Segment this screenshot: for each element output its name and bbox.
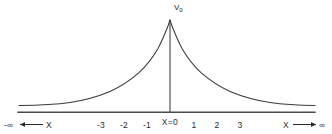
curve-left-branch [19, 20, 170, 105]
x-axis-positive-infinity-label: ∞ [319, 120, 325, 130]
x-tick-label-minus-2: -2 [120, 120, 128, 130]
x-tick-label-minus-3: -3 [97, 120, 105, 130]
x-tick-label-2: 2 [215, 120, 220, 130]
x-axis-right-variable-label: X [283, 120, 289, 130]
peak-amplitude-subscript: 0 [179, 7, 182, 13]
x-axis-origin-label: X=0 [162, 117, 178, 127]
x-axis-negative-infinity-label: -∞ [4, 120, 13, 130]
plot-canvas [0, 0, 332, 134]
peak-amplitude-label: V0 [174, 3, 183, 12]
x-tick-label-3: 3 [238, 120, 243, 130]
curve-right-branch [170, 20, 315, 105]
right-direction-arrow-icon [293, 122, 316, 127]
x-axis-left-variable-label: X [46, 120, 52, 130]
exponential-potential-figure: V0 -∞ X -3 -2 -1 X=0 1 2 3 X ∞ [0, 0, 332, 134]
x-tick-label-minus-1: -1 [143, 120, 151, 130]
x-tick-label-1: 1 [192, 120, 197, 130]
left-direction-arrow-icon [20, 122, 43, 127]
